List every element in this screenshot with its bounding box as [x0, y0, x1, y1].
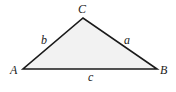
vertex-label-c: C	[78, 2, 87, 16]
vertex-label-a: A	[9, 63, 18, 77]
side-label-c: c	[88, 70, 94, 84]
side-label-a: a	[124, 33, 130, 47]
triangle-diagram: A B C a b c	[0, 0, 176, 92]
side-label-b: b	[41, 33, 47, 47]
vertex-label-b: B	[160, 63, 168, 77]
